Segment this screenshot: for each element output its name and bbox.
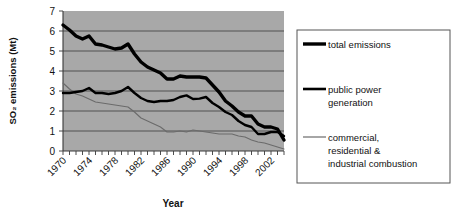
y-axis-tick-labels: 7 6 5 4 3 2 1 0 [49,6,55,157]
y-axis-tickmarks [59,11,63,151]
so2-emissions-line-chart: 7 6 5 4 3 2 1 0 SO₂ emissions (Mt) 19701… [0,0,458,214]
legend-label-public-power-generation-line2: generation [328,97,373,108]
x-tick-label: 1982 [123,154,147,178]
chart-legend: total emissions public power generation … [297,30,450,183]
chart-canvas: 7 6 5 4 3 2 1 0 SO₂ emissions (Mt) 19701… [0,0,458,214]
y-tick-label: 2 [49,106,55,117]
y-axis-title: SO₂ emissions (Mt) [7,37,18,124]
y-tick-label: 3 [49,86,55,97]
x-tick-label: 2002 [253,154,277,178]
legend-label-commercial-line3: industrial combustion [328,158,417,169]
legend-label-total-emissions: total emissions [328,39,391,50]
x-tick-label: 1986 [149,154,173,178]
x-axis-minor-tickmarks [63,151,284,155]
x-tick-label: 1998 [227,154,251,178]
y-tick-label: 1 [49,126,55,137]
legend-label-commercial-line1: commercial, [328,132,379,143]
y-tick-label: 6 [49,26,55,37]
x-tick-label: 1978 [97,154,121,178]
y-tick-label: 5 [49,46,55,57]
x-tick-label: 1974 [71,154,95,178]
x-axis-tick-labels: 197019741978198219861990199419982002 [45,154,277,178]
x-tick-label: 1990 [175,154,199,178]
legend-label-public-power-generation-line1: public power [328,84,381,95]
y-tick-label: 7 [49,6,55,17]
y-tick-label: 4 [49,66,55,77]
plot-area-background [63,11,284,151]
legend-label-commercial-line2: residential & [328,145,381,156]
x-tick-label: 1970 [45,154,69,178]
x-tick-label: 1994 [201,154,225,178]
x-axis-title: Year [162,198,183,209]
y-tick-label: 0 [49,146,55,157]
